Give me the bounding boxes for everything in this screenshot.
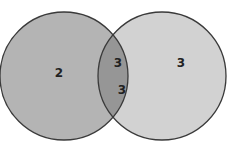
intersection-top-label: 3 xyxy=(114,56,122,70)
intersection-bottom-label: 3 xyxy=(118,83,126,97)
venn-diagram: 2 3 3 3 xyxy=(0,0,237,147)
left-only-label: 2 xyxy=(55,66,63,80)
right-only-label: 3 xyxy=(177,56,185,70)
